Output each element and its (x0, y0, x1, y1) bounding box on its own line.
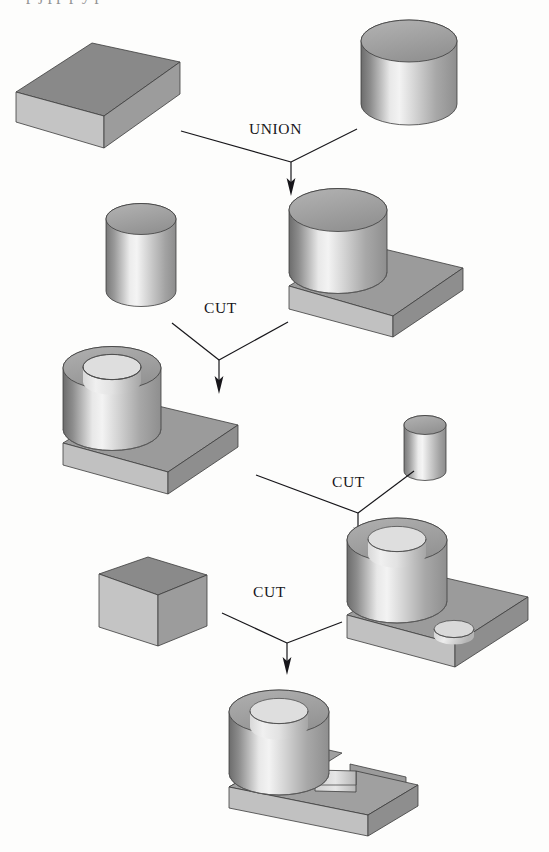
shape-block-cutter (99, 557, 207, 646)
shape-cylinder-large (361, 20, 457, 125)
shape-block-base (16, 43, 180, 148)
operation-label-cut-3: CUT (253, 584, 286, 600)
shape-ring-plate (63, 347, 238, 495)
arrow-union (181, 129, 357, 184)
operation-label-cut-1: CUT (204, 300, 237, 316)
operation-label-union: UNION (249, 121, 302, 137)
shape-cylinder-small (404, 416, 446, 481)
shape-final-part (229, 690, 418, 836)
shape-ring-plate-hole (347, 518, 528, 667)
shape-union-result (289, 189, 463, 338)
arrow-cut-1 (172, 322, 288, 382)
figure-page: p j pp p y p (0, 0, 549, 852)
arrow-cut-3 (222, 613, 342, 663)
shape-cylinder-inner (106, 204, 176, 307)
operation-label-cut-2: CUT (332, 474, 365, 490)
